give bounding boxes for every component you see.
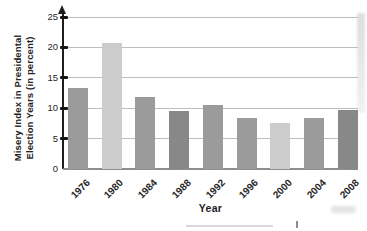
bar-1988: [169, 111, 189, 169]
x-tick-label-2004: 2004: [304, 177, 328, 201]
misery-index-bar-chart: Misery Index in Presidental Election Yea…: [0, 0, 367, 231]
scan-artifact-bottom-line: [186, 225, 273, 227]
scan-artifact-bottom-tick: [296, 221, 298, 228]
y-tick-label-10: 10: [26, 102, 58, 114]
x-tick-label-1980: 1980: [102, 177, 126, 201]
y-axis-tick-25: [60, 16, 68, 19]
bar-2008: [338, 110, 358, 169]
bar-1980: [102, 43, 122, 169]
y-axis-tick-15: [60, 76, 68, 79]
bar-1976: [68, 88, 88, 169]
y-axis-title-line-1: Misery Index in Presidental: [12, 35, 24, 162]
bar-1996: [237, 118, 257, 169]
x-tick-label-2000: 2000: [270, 177, 294, 201]
x-tick-label-1984: 1984: [136, 177, 160, 201]
gridline-25: [63, 17, 358, 18]
y-axis-line: [62, 12, 64, 169]
bar-2000: [270, 123, 290, 169]
y-tick-label-20: 20: [26, 41, 58, 53]
scan-artifact-right-band: [357, 13, 365, 113]
bar-1984: [135, 97, 155, 169]
y-axis-tick-10: [60, 107, 68, 110]
y-tick-label-25: 25: [26, 11, 58, 23]
y-axis-tick-5: [60, 137, 68, 140]
y-tick-label-5: 5: [26, 133, 58, 145]
bar-2004: [304, 118, 324, 169]
x-tick-label-1976: 1976: [68, 177, 92, 201]
scan-artifact-right-smudge: [331, 206, 356, 213]
y-tick-label-15: 15: [26, 72, 58, 84]
y-tick-label-0: 0: [26, 163, 58, 175]
x-tick-label-2008: 2008: [338, 177, 362, 201]
y-axis-tick-20: [60, 46, 68, 49]
x-tick-label-1996: 1996: [237, 177, 261, 201]
x-axis-title: Year: [63, 202, 358, 214]
x-tick-label-1988: 1988: [169, 177, 193, 201]
x-tick-label-1992: 1992: [203, 177, 227, 201]
bar-1992: [203, 105, 223, 169]
